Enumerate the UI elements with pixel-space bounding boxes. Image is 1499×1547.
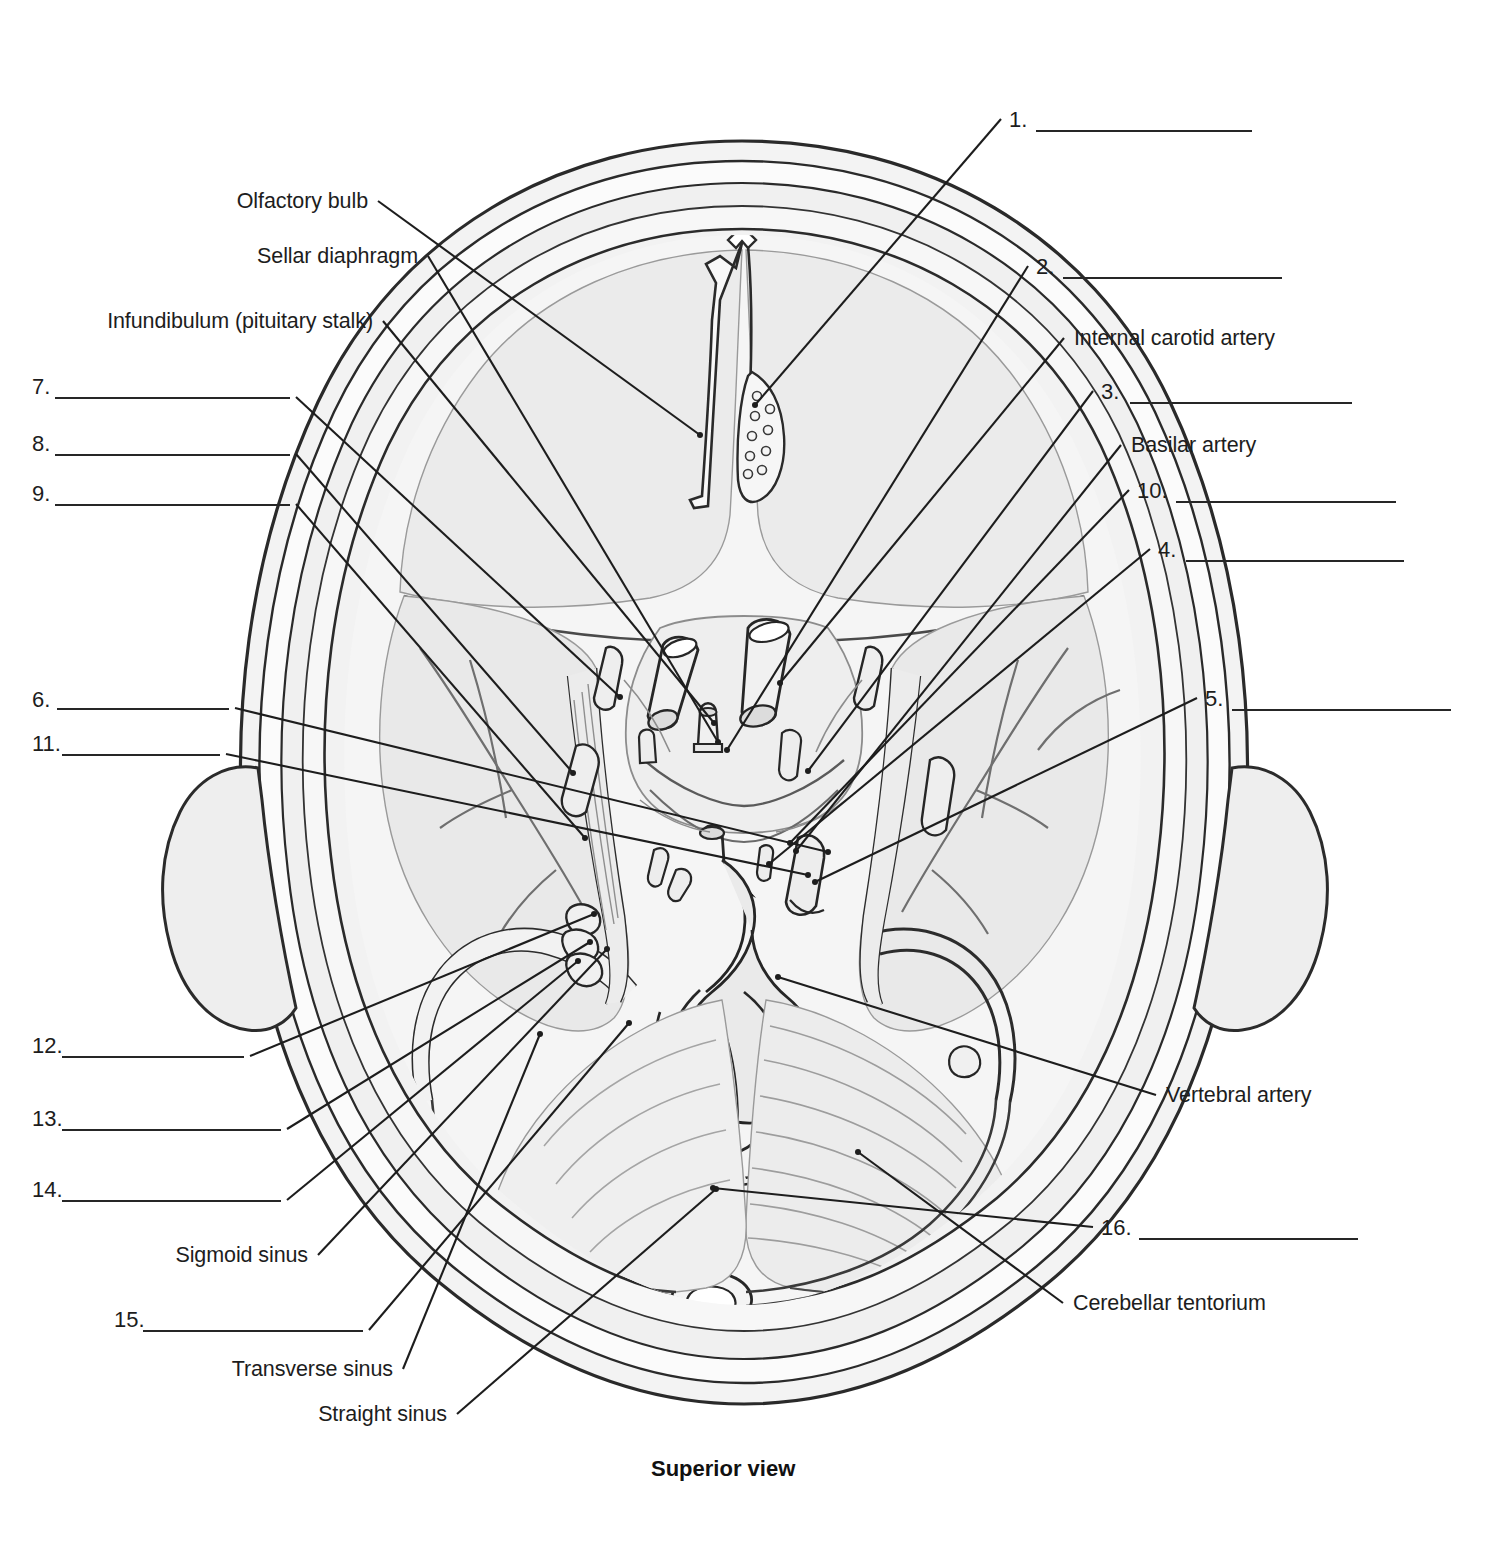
basilar-artery-shape — [682, 825, 817, 1123]
blank-number-10: 10. — [1137, 478, 1168, 504]
answer-blank-3[interactable] — [1130, 402, 1352, 404]
blank-number-4: 4. — [1158, 537, 1176, 563]
answer-blank-11[interactable] — [62, 754, 220, 756]
answer-blank-6[interactable] — [57, 708, 229, 710]
nerve-stumps-anterior — [639, 730, 801, 781]
leader-endpoint — [575, 958, 581, 964]
leader-line — [727, 266, 1028, 750]
answer-blank-7[interactable] — [55, 397, 290, 399]
leader-line — [858, 1152, 1063, 1303]
transverse-sinus-arcs — [418, 1100, 1010, 1306]
leader-endpoint — [812, 879, 818, 885]
answer-blank-16[interactable] — [1139, 1238, 1358, 1240]
leader-line — [383, 321, 714, 723]
leader-line — [296, 454, 573, 773]
answer-blank-8[interactable] — [55, 454, 290, 456]
answer-blank-10[interactable] — [1176, 501, 1396, 503]
answer-blank-4[interactable] — [1186, 560, 1404, 562]
answer-blank-13[interactable] — [62, 1129, 281, 1131]
leader-line — [403, 1034, 540, 1369]
cerebellar-tentorium-left — [487, 1000, 746, 1294]
foramen-magnum — [653, 1012, 817, 1185]
label-vertebral-artery: Vertebral artery — [1166, 1084, 1311, 1108]
leader-endpoint — [793, 848, 799, 854]
endocranial-floor — [300, 200, 1200, 1350]
leader-line — [755, 119, 1001, 405]
answer-blank-9[interactable] — [55, 504, 290, 506]
blank-number-11: 11. — [32, 731, 61, 757]
leader-line — [318, 949, 607, 1255]
answer-blank-12[interactable] — [62, 1056, 244, 1058]
leader-endpoint — [752, 402, 758, 408]
leader-endpoint — [591, 911, 597, 917]
leader-endpoints — [537, 402, 861, 1192]
leader-line — [790, 490, 1129, 843]
leader-line — [815, 698, 1197, 882]
leader-endpoint — [766, 861, 772, 867]
temporal-bulges — [163, 767, 1328, 1031]
leader-endpoint — [805, 872, 811, 878]
label-cerebellar-tentorium: Cerebellar tentorium — [1073, 1292, 1266, 1316]
leader-endpoint — [587, 939, 593, 945]
label-straight-sinus: Straight sinus — [318, 1403, 447, 1427]
vertebral-arteries — [664, 990, 786, 1156]
leader-line — [796, 445, 1121, 851]
leader-line — [808, 391, 1093, 771]
label-infundibulum: Infundibulum (pituitary stalk) — [107, 310, 373, 334]
leader-endpoint — [626, 1020, 632, 1026]
blank-number-1: 1. — [1009, 107, 1027, 133]
leader-line — [250, 914, 594, 1056]
label-sigmoid-sinus: Sigmoid sinus — [175, 1244, 308, 1268]
label-transverse-sinus: Transverse sinus — [232, 1358, 393, 1382]
leader-line — [378, 201, 700, 435]
leader-line — [713, 1188, 1093, 1227]
leader-endpoint — [582, 835, 588, 841]
answer-blank-15[interactable] — [143, 1330, 363, 1332]
figure-caption: Superior view — [651, 1456, 795, 1482]
label-olfactory-bulb: Olfactory bulb — [237, 190, 368, 214]
leader-line — [226, 754, 808, 875]
leader-endpoint — [805, 768, 811, 774]
leader-endpoint — [713, 1186, 719, 1192]
leader-endpoint — [604, 946, 610, 952]
leader-line — [769, 549, 1150, 864]
leader-endpoint — [697, 432, 703, 438]
label-sellar-diaphragm: Sellar diaphragm — [257, 245, 418, 269]
leader-endpoint — [710, 1185, 716, 1191]
answer-blank-2[interactable] — [1063, 277, 1282, 279]
blank-number-15: 15. — [114, 1307, 145, 1333]
sigmoid-sinus-left — [413, 929, 636, 1268]
blank-number-9: 9. — [32, 481, 50, 507]
blank-number-13: 13. — [32, 1106, 63, 1132]
confluence-of-sinuses — [672, 1273, 752, 1317]
leader-endpoint — [724, 747, 730, 753]
leader-endpoint — [787, 840, 793, 846]
label-internal-carotid-artery: Internal carotid artery — [1074, 327, 1275, 351]
leader-line — [235, 708, 828, 852]
blank-number-7: 7. — [32, 374, 50, 400]
blank-number-6: 6. — [32, 687, 50, 713]
leader-endpoint — [617, 694, 623, 700]
label-basilar-artery: Basilar artery — [1131, 434, 1256, 458]
cranial-base-illustration — [0, 0, 1499, 1547]
answer-blank-5[interactable] — [1232, 709, 1451, 711]
infundibulum-stump — [694, 703, 722, 752]
blank-number-5: 5. — [1205, 686, 1223, 712]
leader-endpoint — [825, 849, 831, 855]
leader-line — [457, 1189, 716, 1414]
leader-line — [287, 942, 590, 1129]
leader-endpoint — [537, 1031, 543, 1037]
leader-line — [287, 961, 578, 1200]
answer-blank-1[interactable] — [1036, 130, 1252, 132]
medulla-stem — [675, 1030, 737, 1290]
leader-line — [778, 977, 1156, 1095]
answer-blank-14[interactable] — [62, 1200, 281, 1202]
leader-line — [296, 504, 585, 838]
leader-line — [780, 338, 1064, 683]
leader-endpoint — [570, 770, 576, 776]
leader-line — [296, 397, 620, 697]
petrous-ridge-left — [562, 647, 627, 1004]
blank-number-8: 8. — [32, 431, 50, 457]
blank-number-12: 12. — [32, 1033, 63, 1059]
internal-carotid-stumps — [646, 618, 791, 733]
